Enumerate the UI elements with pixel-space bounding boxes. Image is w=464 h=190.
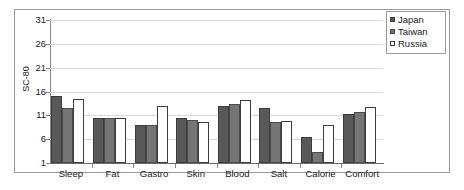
y-tick-mark	[46, 163, 50, 164]
bar-russia-salt	[281, 121, 292, 163]
x-tick-mark	[92, 164, 93, 168]
bar-russia-skin	[198, 122, 209, 163]
y-tick-label: 16	[35, 87, 46, 97]
bar-russia-comfort	[365, 107, 376, 163]
x-tick-label: Salt	[258, 168, 300, 179]
bar-group	[259, 20, 292, 163]
bar-taiwan-comfort	[354, 112, 365, 163]
bar-taiwan-calorie	[312, 152, 323, 163]
bar-japan-salt	[259, 108, 270, 163]
bar-taiwan-fat	[104, 118, 115, 163]
bar-taiwan-sleep	[62, 108, 73, 163]
legend-item-japan: Japan	[390, 14, 442, 25]
x-tick-mark	[300, 164, 301, 168]
bar-japan-calorie	[301, 137, 312, 163]
y-tick-mark	[46, 68, 50, 69]
legend-swatch-icon	[390, 17, 395, 22]
bar-russia-blood	[240, 100, 251, 163]
bar-taiwan-gastro	[146, 125, 157, 163]
bar-japan-skin	[176, 118, 187, 163]
bar-taiwan-skin	[187, 120, 198, 163]
x-tick-label: Sleep	[50, 168, 92, 179]
y-tick-mark	[46, 20, 50, 21]
x-tick-mark	[217, 164, 218, 168]
y-tick-mark	[46, 139, 50, 140]
y-tick-label: 11	[36, 110, 46, 120]
bar-group	[343, 20, 376, 163]
x-tick-mark	[133, 164, 134, 168]
x-tick-mark	[258, 164, 259, 168]
chart-legend: Japan Taiwan Russia	[386, 11, 446, 54]
x-tick-mark	[175, 164, 176, 168]
y-tick-label: 26	[35, 39, 46, 49]
x-axis-tick-labels: SleepFatGastroSkinBloodSaltCalorieComfor…	[50, 168, 383, 184]
legend-item-taiwan: Taiwan	[390, 26, 442, 37]
bar-group	[135, 20, 168, 163]
y-tick-mark	[46, 44, 50, 45]
bar-taiwan-blood	[229, 104, 240, 163]
plot-area	[50, 20, 383, 163]
bar-group	[301, 20, 334, 163]
y-tick-label: 21	[35, 63, 46, 73]
bar-group	[51, 20, 84, 163]
y-tick-mark	[46, 115, 50, 116]
x-tick-label: Calorie	[300, 168, 342, 179]
bar-russia-fat	[115, 118, 126, 163]
bar-japan-comfort	[343, 114, 354, 163]
legend-label: Russia	[398, 39, 427, 49]
bar-chart: SC-80 161116212631 SleepFatGastroSkinBlo…	[0, 0, 464, 190]
bar-russia-sleep	[73, 99, 84, 163]
y-tick-label: 31	[35, 15, 46, 25]
legend-swatch-icon	[390, 41, 395, 46]
bar-taiwan-salt	[270, 122, 281, 163]
bar-russia-gastro	[157, 106, 168, 163]
bar-group	[176, 20, 209, 163]
bar-russia-calorie	[323, 125, 334, 163]
x-tick-label: Blood	[217, 168, 259, 179]
x-tick-label: Comfort	[341, 168, 383, 179]
x-tick-label: Skin	[175, 168, 217, 179]
bar-japan-gastro	[135, 125, 146, 163]
bar-japan-blood	[218, 106, 229, 163]
bar-group	[218, 20, 251, 163]
bar-japan-fat	[93, 118, 104, 163]
y-tick-mark	[46, 92, 50, 93]
x-tick-label: Fat	[92, 168, 134, 179]
legend-swatch-icon	[390, 29, 395, 34]
legend-label: Taiwan	[398, 27, 428, 37]
bar-japan-sleep	[51, 96, 62, 163]
y-axis-tick-labels: 161116212631	[26, 0, 46, 190]
legend-label: Japan	[398, 15, 424, 25]
x-tick-label: Gastro	[133, 168, 175, 179]
bar-group	[93, 20, 126, 163]
legend-item-russia: Russia	[390, 38, 442, 49]
x-tick-mark	[341, 164, 342, 168]
